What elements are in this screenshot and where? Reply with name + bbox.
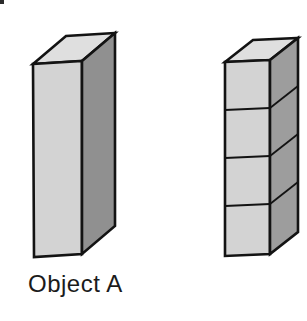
- object-a-prism-front-face: [33, 61, 82, 257]
- object-a-prism-side-face: [82, 33, 115, 254]
- worksheet-figure: Object A: [0, 0, 307, 321]
- segmented-prism: [225, 38, 298, 256]
- object-a-label: Object A: [28, 271, 123, 297]
- object-a-prism: [33, 33, 115, 257]
